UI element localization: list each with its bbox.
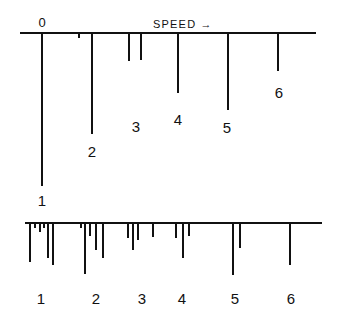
top-spectrum: 0SPEED →123456 <box>20 15 316 209</box>
bottom-group-label: 2 <box>92 290 100 307</box>
top-line-label: 3 <box>132 118 140 135</box>
bottom-group-label: 6 <box>287 290 295 307</box>
top-line-label: 5 <box>223 119 231 136</box>
bottom-group-label: 3 <box>138 290 146 307</box>
bottom-spectrum: 123456 <box>25 223 322 307</box>
top-line-label: 1 <box>38 192 46 209</box>
top-line-label: 4 <box>174 111 182 128</box>
bottom-group-label: 4 <box>178 290 186 307</box>
origin-label: 0 <box>38 15 45 30</box>
speed-spectrum-diagram: 0SPEED →123456 123456 <box>0 0 338 322</box>
speed-axis-label: SPEED → <box>153 18 213 30</box>
bottom-group-label: 5 <box>231 290 239 307</box>
bottom-group-label: 1 <box>37 290 45 307</box>
top-line-label: 2 <box>88 143 96 160</box>
top-line-label: 6 <box>275 84 283 101</box>
